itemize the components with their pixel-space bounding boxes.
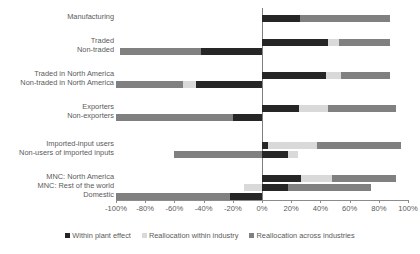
bar-row	[116, 72, 408, 79]
legend-swatch-icon	[142, 233, 147, 238]
legend-swatch-icon	[249, 233, 254, 238]
bar-segment	[301, 175, 332, 182]
bar-segment	[288, 184, 371, 191]
bar-segment	[116, 81, 183, 88]
category-label: Imported-input users	[46, 140, 114, 148]
x-tick	[174, 200, 175, 203]
bar-segment	[116, 193, 230, 200]
bar-segment	[183, 81, 196, 88]
x-tick	[379, 200, 380, 203]
bar-row	[116, 81, 408, 88]
bar-segment	[262, 105, 299, 112]
bar-row	[116, 175, 408, 182]
category-label: Non-traded	[77, 46, 114, 54]
bar-segment	[326, 72, 341, 79]
stacked-bar-chart: ManufacturingTradedNon-tradedTraded in N…	[0, 0, 420, 254]
bar-segment	[262, 72, 326, 79]
x-tick	[320, 200, 321, 203]
category-label: Non-traded in North America	[20, 79, 114, 87]
category-label: Traded	[91, 37, 114, 45]
bar-row	[116, 184, 408, 191]
bar-row	[116, 39, 408, 46]
bar-segment	[233, 114, 262, 121]
bar-row	[116, 142, 408, 149]
legend-item[interactable]: Within plant effect	[65, 231, 131, 240]
bar-row	[116, 151, 408, 158]
bar-row	[116, 15, 408, 22]
bar-segment	[328, 39, 340, 46]
x-tick	[116, 200, 117, 203]
bar-segment	[262, 15, 300, 22]
bar-segment	[341, 72, 391, 79]
bar-segment	[317, 142, 400, 149]
x-tick	[350, 200, 351, 203]
x-tick	[204, 200, 205, 203]
bar-segment	[120, 48, 200, 55]
x-tick	[145, 200, 146, 203]
category-label: Non-users of imported inputs	[19, 149, 114, 157]
bar-segment	[262, 184, 288, 191]
category-label: Traded in North America	[34, 70, 114, 78]
bar-segment	[262, 39, 328, 46]
legend-label: Reallocation across industries	[256, 231, 354, 240]
bar-segment	[230, 193, 262, 200]
bar-segment	[288, 151, 298, 158]
legend-label: Within plant effect	[72, 231, 131, 240]
category-label: Manufacturing	[67, 13, 114, 21]
category-label: MNC: North America	[46, 173, 114, 181]
legend-label: Reallocation within industry	[149, 231, 239, 240]
bar-segment	[116, 114, 233, 121]
category-label: MNC: Rest of the world	[38, 182, 114, 190]
x-tick	[233, 200, 234, 203]
legend-item[interactable]: Reallocation across industries	[249, 231, 354, 240]
x-tick-label: 100%	[388, 204, 420, 213]
bar-row	[116, 193, 408, 200]
bar-segment	[262, 175, 301, 182]
bar-segment	[244, 184, 262, 191]
plot-area	[116, 8, 408, 200]
category-label-column: ManufacturingTradedNon-tradedTraded in N…	[0, 0, 114, 200]
x-tick	[262, 200, 263, 203]
bar-segment	[300, 15, 391, 22]
legend-item[interactable]: Reallocation within industry	[142, 231, 239, 240]
bar-segment	[299, 105, 328, 112]
bar-segment	[196, 81, 262, 88]
bar-row	[116, 114, 408, 121]
zero-axis-line	[262, 8, 263, 200]
x-tick	[291, 200, 292, 203]
legend-swatch-icon	[65, 233, 70, 238]
category-label: Exporters	[82, 103, 114, 111]
bar-segment	[328, 105, 397, 112]
bar-segment	[339, 39, 390, 46]
category-label: Non-exporters	[67, 112, 114, 120]
bar-segment	[268, 142, 318, 149]
bar-row	[116, 105, 408, 112]
bar-segment	[201, 48, 262, 55]
bar-segment	[174, 151, 262, 158]
category-label: Domestic	[83, 191, 114, 199]
chart-legend: Within plant effectReallocation within i…	[0, 231, 420, 240]
bar-row	[116, 48, 408, 55]
bar-segment	[262, 151, 288, 158]
bar-segment	[332, 175, 396, 182]
x-tick	[408, 200, 409, 203]
